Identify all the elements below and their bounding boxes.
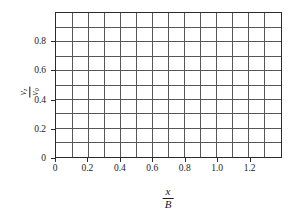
x-tick-mark [185,158,186,162]
y-axis-label-denominator: v0 [31,86,41,97]
x-tick-mark [217,158,218,162]
y-axis-label: vz v0 [19,86,40,97]
plot-area [55,12,282,158]
y-tick-mark [51,158,55,159]
x-tick-label-0: 0 [53,163,58,174]
x-tick-label-4: 0.8 [179,163,191,174]
x-axis-label: x B [163,186,174,210]
x-axis-label-fraction: x B [163,186,174,210]
x-axis-label-numerator: x [163,186,174,197]
x-tick-mark [120,158,121,162]
x-tick-mark [87,158,88,162]
x-tick-mark [152,158,153,162]
y-tick-label-0: 0 [30,153,46,164]
x-tick-label-6: 1.2 [244,163,256,174]
grid-lines [56,13,281,157]
x-tick-label-1: 0.2 [81,163,93,174]
x-tick-label-2: 0.4 [114,163,126,174]
y-tick-mark [51,70,55,71]
figure-blank-grid-chart: 0 0.2 0.4 0.6 0.8 1.0 1.2 0 0.2 0.4 0.6 … [0,0,296,219]
y-tick-mark [51,41,55,42]
y-axis-label-fraction: vz v0 [19,86,40,97]
y-tick-mark [51,100,55,101]
y-tick-label-4: 0.8 [30,36,46,47]
y-axis-label-denominator-base: v [30,91,40,95]
y-axis-label-denominator-subscript: 0 [34,88,40,91]
x-tick-label-5: 1.0 [211,163,223,174]
x-tick-label-3: 0.6 [146,163,158,174]
x-axis-label-denominator: B [163,199,174,210]
x-tick-mark [55,158,56,162]
x-tick-mark [250,158,251,162]
y-tick-label-3: 0.6 [30,65,46,76]
y-tick-mark [51,129,55,130]
y-axis-label-numerator: vz [19,86,29,97]
y-tick-label-1: 0.2 [30,123,46,134]
y-axis-label-numerator-base: v [18,91,28,95]
